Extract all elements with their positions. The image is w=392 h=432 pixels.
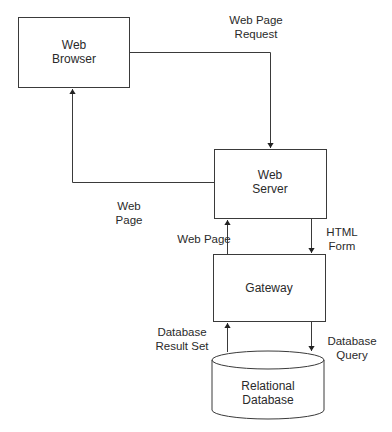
web-page-gateway-label: Web Page (174, 232, 234, 246)
html-form-label: HTML Form (322, 225, 362, 253)
web-page-return-label: Web Page (106, 199, 152, 227)
web-page-request-label: Web Page Request (218, 13, 294, 41)
web-server-label: Web Server (214, 168, 326, 196)
web-page-request-arrow (130, 53, 271, 149)
gateway-label: Gateway (213, 281, 325, 295)
web-page-return-arrow (73, 89, 215, 183)
db-query-label: Database Query (324, 334, 380, 362)
db-result-set-label: Database Result Set (152, 325, 212, 353)
database-label: Relational Database (212, 379, 324, 407)
web-browser-label: Web Browser (18, 38, 130, 66)
